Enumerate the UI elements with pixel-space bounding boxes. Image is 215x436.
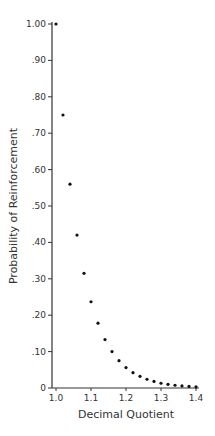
y-tick-label: 0 [40, 383, 46, 393]
x-axis-ticks: 1.01.11.21.31.4 [49, 388, 204, 403]
data-point [173, 384, 176, 387]
x-tick-label: 1.1 [84, 393, 98, 403]
y-axis-label: Probability of Reinforcement [7, 127, 20, 284]
y-tick-label: .50 [32, 201, 47, 211]
data-point [89, 300, 92, 303]
y-tick-label: .10 [32, 347, 47, 357]
data-point [138, 375, 141, 378]
y-tick-label: .30 [32, 274, 47, 284]
data-point [61, 113, 64, 116]
data-point [117, 359, 120, 362]
data-point [159, 382, 162, 385]
x-axis-label: Decimal Quotient [78, 408, 175, 421]
x-tick-label: 1.4 [189, 393, 204, 403]
data-point [194, 385, 197, 388]
x-tick-label: 1.2 [119, 393, 133, 403]
y-tick-label: .20 [32, 310, 47, 320]
axes [52, 22, 199, 388]
data-point [152, 380, 155, 383]
x-tick-label: 1.0 [49, 393, 64, 403]
y-axis-ticks: 0.10.20.30.40.50.60.70.80.901.00 [26, 19, 52, 393]
data-point [131, 371, 134, 374]
data-points [54, 22, 197, 388]
y-tick-label: 1.00 [26, 19, 46, 29]
x-tick-label: 1.3 [154, 393, 168, 403]
chart: 0.10.20.30.40.50.60.70.80.901.00 1.01.11… [0, 0, 215, 436]
data-point [68, 183, 71, 186]
data-point [145, 378, 148, 381]
data-point [180, 384, 183, 387]
data-point [75, 234, 78, 237]
data-point [110, 350, 113, 353]
data-point [82, 272, 85, 275]
y-tick-label: .70 [32, 128, 47, 138]
y-tick-label: .80 [32, 92, 47, 102]
data-point [96, 322, 99, 325]
data-point [103, 338, 106, 341]
y-tick-label: .60 [32, 165, 47, 175]
y-tick-label: .90 [32, 55, 47, 65]
data-point [187, 385, 190, 388]
y-tick-label: .40 [32, 237, 47, 247]
data-point [54, 22, 57, 25]
data-point [124, 366, 127, 369]
data-point [166, 383, 169, 386]
